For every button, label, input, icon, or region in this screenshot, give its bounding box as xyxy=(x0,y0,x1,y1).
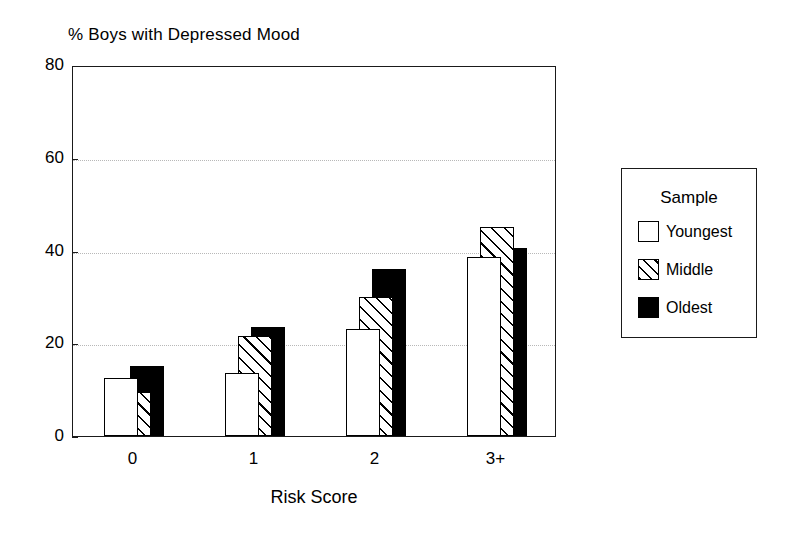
bar-youngest-risk-2 xyxy=(346,329,380,436)
legend: Sample YoungestMiddleOldest xyxy=(621,168,757,338)
x-tick-label: 0 xyxy=(93,449,173,469)
legend-swatch-oldest-icon xyxy=(638,297,659,318)
bar-youngest-risk-3plus xyxy=(467,257,501,436)
y-tick-mark xyxy=(72,66,78,67)
bar-chart-figure: % Boys with Depressed Mood 020406080 012… xyxy=(0,0,792,536)
legend-item-youngest[interactable]: Youngest xyxy=(638,221,732,242)
legend-item-middle[interactable]: Middle xyxy=(638,259,713,280)
legend-swatch-middle-icon xyxy=(638,259,659,280)
y-tick-label: 40 xyxy=(6,241,64,261)
chart-title: % Boys with Depressed Mood xyxy=(68,25,300,45)
x-axis-title: Risk Score xyxy=(72,487,556,508)
legend-item-oldest[interactable]: Oldest xyxy=(638,297,712,318)
plot-inner xyxy=(73,67,555,436)
x-tick-label: 3+ xyxy=(456,449,536,469)
bar-youngest-risk-1 xyxy=(225,373,259,436)
x-tick-label: 2 xyxy=(335,449,415,469)
gridline xyxy=(73,160,555,161)
bar-youngest-risk-0 xyxy=(104,378,138,436)
y-tick-label: 60 xyxy=(6,148,64,168)
y-tick-label: 80 xyxy=(6,55,64,75)
y-tick-mark xyxy=(72,344,78,345)
y-tick-label: 0 xyxy=(6,426,64,446)
y-tick-mark xyxy=(72,252,78,253)
y-tick-mark xyxy=(72,437,78,438)
legend-item-label: Middle xyxy=(666,261,713,279)
legend-item-label: Oldest xyxy=(666,299,712,317)
y-tick-mark xyxy=(72,159,78,160)
legend-item-label: Youngest xyxy=(666,223,732,241)
y-tick-label: 20 xyxy=(6,333,64,353)
legend-title: Sample xyxy=(622,188,756,208)
x-tick-label: 1 xyxy=(214,449,294,469)
plot-area xyxy=(72,66,556,437)
legend-swatch-youngest-icon xyxy=(638,221,659,242)
